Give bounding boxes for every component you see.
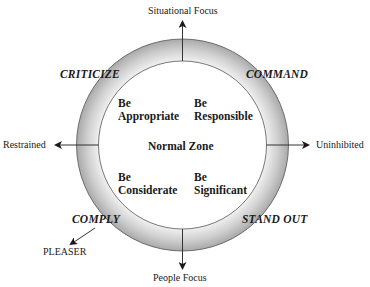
- style-command: COMMAND: [246, 69, 308, 81]
- quadrant-bottom-right: Be Significant: [194, 171, 247, 197]
- style-criticize: CRITICIZE: [60, 69, 120, 81]
- quadrant-top-left-line1: Be: [118, 97, 179, 110]
- quadrant-top-left: Be Appropriate: [118, 97, 179, 123]
- quadrant-bottom-left-line2: Considerate: [118, 184, 177, 197]
- quadrant-bottom-left: Be Considerate: [118, 171, 177, 197]
- axis-label-left: Restrained: [3, 140, 46, 150]
- axis-label-right: Uninhibited: [316, 140, 364, 150]
- axis-label-bottom: People Focus: [153, 273, 207, 283]
- pleaser-label: PLEASER: [43, 247, 86, 257]
- quadrant-top-right: Be Responsible: [194, 97, 253, 123]
- quadrant-top-right-line1: Be: [194, 97, 253, 110]
- quadrant-top-left-line2: Appropriate: [118, 110, 179, 123]
- axis-label-top: Situational Focus: [148, 6, 218, 16]
- arrow-pleaser: [71, 228, 95, 244]
- style-comply: COMPLY: [72, 214, 120, 226]
- normal-zone-label: Normal Zone: [148, 141, 213, 153]
- quadrant-bottom-left-line1: Be: [118, 171, 177, 184]
- quadrant-bottom-right-line1: Be: [194, 171, 247, 184]
- quadrant-top-right-line2: Responsible: [194, 110, 253, 123]
- style-stand-out: STAND OUT: [242, 214, 307, 226]
- quadrant-bottom-right-line2: Significant: [194, 184, 247, 197]
